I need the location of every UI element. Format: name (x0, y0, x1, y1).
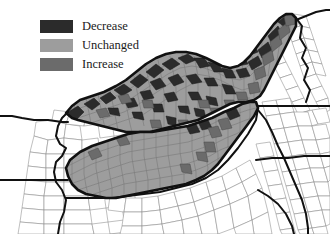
legend-item-decrease: Decrease (40, 17, 139, 36)
legend-swatch-increase (40, 58, 73, 71)
map-legend: Decrease Unchanged Increase (40, 17, 139, 74)
county-choropleth-map: Decrease Unchanged Increase (0, 0, 330, 234)
legend-label-increase: Increase (82, 58, 124, 71)
legend-label-unchanged: Unchanged (82, 39, 139, 52)
legend-label-decrease: Decrease (82, 20, 128, 33)
legend-item-increase: Increase (40, 55, 139, 74)
legend-swatch-unchanged (40, 39, 73, 52)
legend-swatch-decrease (40, 20, 73, 33)
legend-item-unchanged: Unchanged (40, 36, 139, 55)
